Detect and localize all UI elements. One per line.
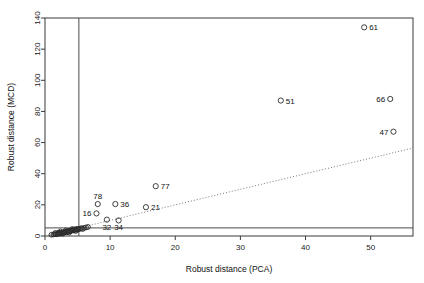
x-tick-label: 30 xyxy=(236,243,245,252)
point-labels: 6166475177213678163234 xyxy=(83,23,389,232)
y-tick-label: 20 xyxy=(33,200,42,209)
data-point-labeled xyxy=(153,184,158,189)
point-label: 36 xyxy=(120,200,129,209)
y-tick-label: 0 xyxy=(33,233,42,238)
plot-canvas: 6166475177213678163234 01020304050020406… xyxy=(0,0,424,283)
y-axis-title: Robust distance (MCD) xyxy=(6,83,16,172)
point-label: 66 xyxy=(376,95,385,104)
point-label: 32 xyxy=(102,223,111,232)
point-label: 61 xyxy=(369,23,378,32)
x-tick-label: 20 xyxy=(171,243,180,252)
x-tick-label: 0 xyxy=(43,243,48,252)
scatter-plot-figure: 6166475177213678163234 01020304050020406… xyxy=(0,0,424,283)
x-axis-title: Robust distance (PCA) xyxy=(186,264,273,274)
point-label: 78 xyxy=(93,192,102,201)
y-tick-label: 100 xyxy=(33,73,42,87)
y-tick-label: 140 xyxy=(33,11,42,25)
point-label: 34 xyxy=(114,223,123,232)
data-point-labeled xyxy=(362,25,367,30)
x-tick-label: 40 xyxy=(301,243,310,252)
y-tick-label: 120 xyxy=(33,42,42,56)
data-point-labeled xyxy=(113,201,118,206)
point-label: 21 xyxy=(151,203,160,212)
data-point-labeled xyxy=(388,96,393,101)
point-label: 51 xyxy=(286,97,295,106)
point-label: 77 xyxy=(161,182,170,191)
point-label: 16 xyxy=(83,209,92,218)
x-tick-label: 50 xyxy=(366,243,375,252)
data-point-labeled xyxy=(278,98,283,103)
y-tick-label: 60 xyxy=(33,138,42,147)
y-tick-label: 40 xyxy=(33,169,42,178)
data-point-labeled xyxy=(391,129,396,134)
x-tick-label: 10 xyxy=(106,243,115,252)
y-tick-label: 80 xyxy=(33,106,42,115)
axis-ticks xyxy=(41,18,371,240)
data-point-labeled xyxy=(143,205,148,210)
point-label: 47 xyxy=(380,128,389,137)
data-point-labeled xyxy=(95,201,100,206)
data-points xyxy=(49,25,396,237)
data-point-labeled xyxy=(94,211,99,216)
